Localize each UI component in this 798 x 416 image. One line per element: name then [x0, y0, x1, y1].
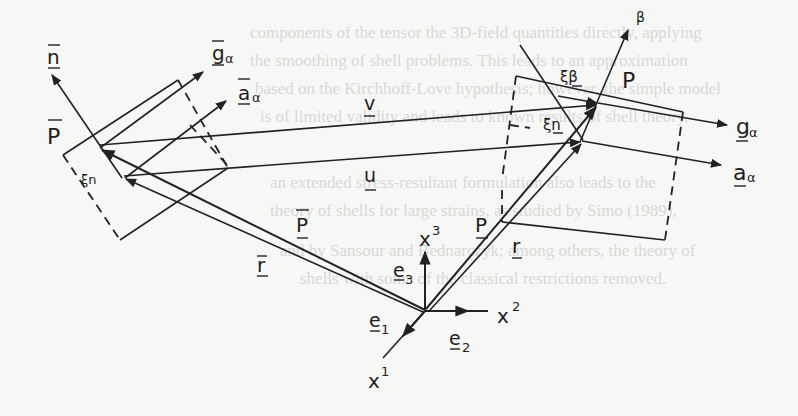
- label-x2: x: [497, 304, 509, 328]
- reference-patch-dashed-left: [63, 155, 120, 240]
- current-patch-dashed-right: [665, 112, 683, 240]
- label-g-alpha: g: [736, 114, 750, 139]
- e1-base-vector: [403, 311, 425, 336]
- label-e1: e: [369, 309, 381, 331]
- label-g-alpha-sub: α: [749, 125, 758, 140]
- v-displacement-vector: [100, 105, 596, 145]
- label-e1-sub: 1: [381, 322, 389, 337]
- reference-patch-dashed-right: [178, 80, 228, 168]
- label-n-bar: n: [47, 45, 60, 69]
- u-displacement-vector: [124, 142, 580, 176]
- g-alpha-vector: [598, 103, 727, 125]
- label-xi-n-bar: ξn: [81, 172, 97, 187]
- beta-director-vector: [580, 30, 628, 142]
- label-e2: e: [449, 327, 461, 349]
- label-e3-sub: 3: [405, 272, 413, 287]
- label-x2-sup: 2: [512, 299, 520, 314]
- xi-beta-arrow: [558, 96, 597, 103]
- label-x3: x: [419, 227, 431, 251]
- label-P-vector: P: [475, 213, 487, 237]
- label-u: u: [364, 164, 376, 186]
- current-patch-solid-top: [516, 76, 683, 112]
- P-position-vector: [426, 107, 596, 309]
- current-patch-dashed-left: [502, 76, 516, 180]
- vector-geometry-diagram: n g α a α P ξn v u P r β ξβ P: [0, 0, 798, 416]
- label-a-alpha-sub: α: [747, 170, 756, 185]
- label-beta: β: [636, 9, 645, 25]
- a-alpha-vector: [582, 141, 721, 165]
- offset-plate-edge: [190, 125, 230, 168]
- label-xi-beta: ξβ: [560, 68, 578, 86]
- label-P-bar-vector: P: [296, 213, 308, 237]
- label-e2-sub: 2: [462, 340, 470, 355]
- g-alpha-bar-vector: [100, 72, 203, 148]
- label-g-alpha-bar-sub: α: [225, 51, 234, 66]
- label-a-alpha-bar: a: [238, 81, 250, 105]
- label-xi-n: ξn: [543, 116, 561, 134]
- label-x3-sup: 3: [432, 223, 440, 238]
- r-position-vector: [430, 144, 581, 310]
- r-bar-position-vector: [126, 179, 423, 312]
- label-e3: e: [393, 259, 405, 281]
- label-a-alpha-bar-sub: α: [252, 90, 261, 105]
- label-g-alpha-bar: g: [212, 41, 225, 65]
- xi-n-corner: [510, 125, 530, 128]
- label-P-bar-point: P: [47, 124, 60, 149]
- label-x1: x: [368, 369, 380, 393]
- label-v: v: [364, 92, 375, 114]
- current-patch-solid-bottom: [502, 222, 665, 240]
- label-x1-sup: 1: [381, 364, 389, 379]
- label-a-alpha: a: [733, 160, 746, 185]
- label-P-point: P: [622, 68, 635, 93]
- n-bar-vector: [52, 75, 122, 178]
- label-r-vector: r: [512, 234, 521, 258]
